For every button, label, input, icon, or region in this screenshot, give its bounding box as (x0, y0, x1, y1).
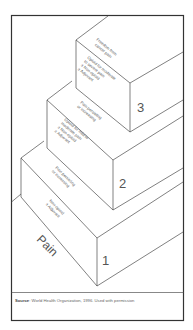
step2-front-bottom-edge (47, 148, 113, 210)
step1-number: 1 (102, 253, 109, 268)
step2-number: 2 (119, 176, 126, 191)
step1-right-bottom-edge (97, 232, 183, 286)
step1-top-text: Pain persisting or increasing (51, 165, 77, 190)
source-text: : World Health Organization, 1996. Used … (29, 298, 134, 303)
step1-back-edge (21, 141, 44, 158)
step3-back-edge (76, 16, 108, 40)
step1-top-edges (21, 158, 183, 238)
source-label: Source (15, 298, 29, 303)
step3-summit-text: Freedom from cancer pain (92, 37, 118, 61)
pain-label: Pain (34, 232, 61, 259)
who-analgesic-ladder-figure: 3 2 1 Freedom from cancer pain Opioid fo… (0, 0, 193, 330)
step2-back-edge (47, 81, 72, 100)
step-outlines (12, 16, 184, 286)
step2-side-text: Opioid for mild to moderate pain ± Non-o… (54, 117, 91, 152)
step2-top-text: Pain persisting or increasing (76, 100, 103, 124)
step3-number: 3 (137, 100, 144, 115)
source-caption: Source: World Health Organization, 1996.… (15, 298, 134, 303)
staircase-diagram: 3 2 1 Freedom from cancer pain Opioid fo… (0, 0, 193, 330)
step3-side-text: Opioid for moderate to severe pain ± Non… (77, 55, 118, 93)
ground-edge (12, 194, 22, 202)
